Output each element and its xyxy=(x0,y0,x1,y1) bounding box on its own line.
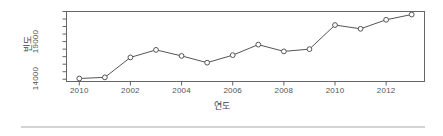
data-point-marker xyxy=(384,17,389,22)
y-axis-title: 빈도 xyxy=(23,32,34,56)
data-point-marker xyxy=(333,23,338,28)
data-point-marker xyxy=(179,54,184,59)
x-tick-label: 2010 xyxy=(315,86,355,95)
y-tick-label: 14000 xyxy=(30,63,39,95)
x-tick-label: 2002 xyxy=(110,86,150,95)
x-tick-label: 2006 xyxy=(213,86,253,95)
chart-figure: 2010200220042006200820102012 1400019000 … xyxy=(0,0,443,136)
y-axis-ticks xyxy=(63,12,67,80)
x-tick-label: 2008 xyxy=(264,86,304,95)
data-point-markers xyxy=(77,12,414,81)
x-tick-label: 2004 xyxy=(162,86,202,95)
data-point-marker xyxy=(102,75,107,80)
data-series-line xyxy=(79,15,411,79)
x-tick-label: 2010 xyxy=(59,86,99,95)
data-point-marker xyxy=(77,76,82,81)
data-point-marker xyxy=(230,53,235,58)
data-point-marker xyxy=(307,47,312,52)
data-point-marker xyxy=(205,60,210,65)
plot-frame xyxy=(67,12,425,82)
x-tick-label: 2012 xyxy=(366,86,406,95)
x-axis-title: 연도 xyxy=(0,101,443,112)
data-point-marker xyxy=(256,42,261,47)
footer-divider xyxy=(21,126,425,128)
data-point-marker xyxy=(154,47,159,52)
data-point-marker xyxy=(128,55,133,60)
data-point-marker xyxy=(281,49,286,54)
data-point-marker xyxy=(409,12,414,17)
data-point-marker xyxy=(358,26,363,31)
x-axis-ticks xyxy=(79,82,386,86)
